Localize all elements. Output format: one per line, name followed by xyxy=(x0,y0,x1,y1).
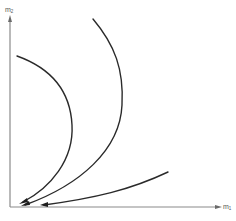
trajectory-1-path xyxy=(17,56,72,202)
trajectory-2-path xyxy=(25,19,122,205)
y-axis-label: m2 xyxy=(5,6,13,15)
x-axis-label-sub: 1 xyxy=(229,206,232,211)
y-axis xyxy=(8,15,12,207)
y-axis-label-sub: 2 xyxy=(11,9,14,14)
trajectory-3-arrow-icon xyxy=(40,202,48,207)
trajectory-3-path xyxy=(44,172,168,205)
x-axis-arrow-icon xyxy=(215,205,222,209)
trajectory-2 xyxy=(21,19,122,206)
trajectory-diagram xyxy=(0,0,236,221)
x-axis xyxy=(10,205,222,209)
x-axis-label: m1 xyxy=(223,203,231,212)
trajectory-1 xyxy=(17,56,72,204)
y-axis-arrow-icon xyxy=(8,15,12,22)
